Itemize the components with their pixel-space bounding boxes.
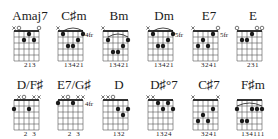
finger-dot xyxy=(121,44,125,48)
finger-dot xyxy=(206,44,210,48)
finger-dot xyxy=(250,107,254,111)
fingering-label: 2 3 xyxy=(8,130,52,138)
open-string-icon xyxy=(66,95,70,99)
chord-11: C♯73241 xyxy=(187,77,231,139)
fretboard-diagram xyxy=(97,91,141,131)
finger-dot xyxy=(255,107,259,111)
fingering-label: 1324 xyxy=(142,130,186,138)
fingering-label: 213 xyxy=(8,61,52,69)
chord-name: C♯7 xyxy=(187,77,231,92)
fretboard-diagram: 4fr xyxy=(52,91,96,131)
finger-dot xyxy=(106,38,110,42)
finger-dot xyxy=(156,101,160,105)
fingering-label: 132 xyxy=(97,130,141,138)
fingering-label: 2 3 xyxy=(52,130,96,138)
chord-name: D♯°7 xyxy=(142,77,186,92)
open-string-icon xyxy=(111,95,115,99)
finger-dot xyxy=(161,44,165,48)
finger-dot xyxy=(76,38,80,42)
open-string-icon xyxy=(260,26,264,30)
finger-dot xyxy=(196,44,200,48)
fretboard-diagram xyxy=(187,91,231,131)
open-string-icon xyxy=(37,26,41,30)
fingering-label: 13421 xyxy=(142,61,186,69)
finger-dot xyxy=(161,107,165,111)
chord-5: E75fr3241 xyxy=(187,8,231,74)
chord-10: D♯°71324 xyxy=(142,77,186,139)
finger-dot xyxy=(116,107,120,111)
fretboard-diagram xyxy=(8,22,52,62)
fingering-label: 13421 xyxy=(97,61,141,69)
chord-7: D/F♯2 3 xyxy=(8,77,52,139)
fingering-label: 231 xyxy=(231,61,275,69)
finger-dot xyxy=(171,107,175,111)
finger-dot xyxy=(235,107,239,111)
fret-position-label: 5fr xyxy=(175,31,184,39)
chord-2: C♯m4fr13421 xyxy=(52,8,96,74)
finger-dot xyxy=(166,101,170,105)
fretboard-diagram xyxy=(8,91,52,131)
fret-position-label: 4fr xyxy=(85,31,94,39)
chord-name: E7/G♯ xyxy=(52,77,96,92)
finger-dot xyxy=(156,44,160,48)
finger-dot xyxy=(27,32,31,36)
fingering-label: 3241 xyxy=(187,61,231,69)
open-string-icon xyxy=(216,26,220,30)
finger-dot xyxy=(260,107,264,111)
fretboard-diagram: 4fr xyxy=(52,22,96,62)
fingering-label: 134111 xyxy=(231,130,275,138)
fingering-label: 13421 xyxy=(52,61,96,69)
chord-name: Bm xyxy=(97,8,141,23)
fingering-label: 3241 xyxy=(187,130,231,138)
finger-dot xyxy=(211,32,215,36)
chord-1: Amaj7213 xyxy=(8,8,52,74)
finger-dot xyxy=(201,113,205,117)
finger-dot xyxy=(71,101,75,105)
finger-dot xyxy=(121,113,125,117)
fretboard-diagram xyxy=(97,22,141,62)
finger-dot xyxy=(166,38,170,42)
open-string-icon xyxy=(255,26,259,30)
chord-6: E231 xyxy=(231,8,275,74)
finger-dot xyxy=(240,119,244,123)
fret-position-label: 4fr xyxy=(85,100,94,108)
fretboard-diagram: 5fr xyxy=(187,22,231,62)
finger-dot xyxy=(126,38,130,42)
chord-8: E7/G♯4fr2 3 xyxy=(52,77,96,139)
finger-dot xyxy=(240,38,244,42)
chord-name: E xyxy=(231,8,275,23)
finger-dot xyxy=(27,107,31,111)
chord-name: Dm xyxy=(142,8,186,23)
fretboard-diagram: 5fr xyxy=(142,22,186,62)
finger-dot xyxy=(111,50,115,54)
finger-dot xyxy=(245,38,249,42)
fretboard-diagram xyxy=(231,91,275,131)
chord-3: Bm13421 xyxy=(97,8,141,74)
chord-name: D/F♯ xyxy=(8,77,52,92)
chord-9: D132 xyxy=(97,77,141,139)
finger-dot xyxy=(116,50,120,54)
open-string-icon xyxy=(235,26,239,30)
chord-name: F♯m xyxy=(231,77,275,92)
finger-dot xyxy=(71,44,75,48)
open-string-icon xyxy=(17,26,21,30)
chord-12: F♯m134111 xyxy=(231,77,275,139)
fret-position-label: 5fr xyxy=(220,31,229,39)
finger-dot xyxy=(211,107,215,111)
chord-name: E7 xyxy=(187,8,231,23)
finger-dot xyxy=(22,38,26,42)
finger-dot xyxy=(196,119,200,123)
finger-dot xyxy=(245,119,249,123)
chord-4: Dm5fr13421 xyxy=(142,8,186,74)
chord-name: C♯m xyxy=(52,8,96,23)
finger-dot xyxy=(61,32,65,36)
fretboard-diagram xyxy=(142,91,186,131)
open-string-icon xyxy=(22,95,26,99)
fretboard-diagram xyxy=(231,22,275,62)
finger-dot xyxy=(126,107,130,111)
finger-dot xyxy=(56,101,60,105)
finger-dot xyxy=(206,119,210,123)
chord-name: D xyxy=(97,77,141,92)
finger-dot xyxy=(12,107,16,111)
finger-dot xyxy=(66,44,70,48)
